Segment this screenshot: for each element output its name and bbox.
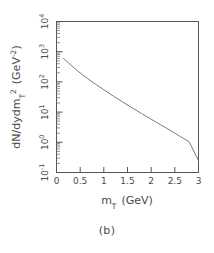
figure-panel: 0 0.5 1 1.5 2 2.5 3 10-1 100 101 [0, 0, 214, 253]
x-axis-tick-labels: 0 0.5 1 1.5 2 2.5 3 [54, 176, 202, 186]
y-tick-label: 10-1 [38, 164, 50, 182]
y-axis-label: dN/dydmT2(GeV-2) [9, 45, 27, 148]
svg-text:mT(GeV): mT(GeV) [101, 194, 153, 211]
chart-canvas: 0 0.5 1 1.5 2 2.5 3 10-1 100 101 [0, 0, 214, 253]
x-tick-label: 2 [148, 176, 154, 186]
y-tick-label: 101 [38, 104, 50, 120]
x-tick-label: 0.5 [73, 176, 87, 186]
x-tick-label: 1 [101, 176, 107, 186]
y-tick-label: 103 [38, 44, 50, 60]
x-tick-label: 3 [196, 176, 202, 186]
x-tick-label: 0 [54, 176, 60, 186]
y-tick-label: 100 [38, 135, 50, 151]
y-tick-label: 104 [38, 14, 50, 30]
svg-text:dN/dydmT2(GeV-2): dN/dydmT2(GeV-2) [9, 45, 27, 148]
figure-caption: (b) [0, 224, 214, 237]
y-tick-label: 102 [38, 74, 50, 90]
plot-frame [57, 22, 199, 173]
y-axis-tick-labels: 10-1 100 101 102 103 [38, 14, 50, 182]
x-tick-label: 2.5 [168, 176, 182, 186]
x-tick-label: 1.5 [120, 176, 134, 186]
x-axis-label: mT(GeV) [101, 194, 153, 211]
